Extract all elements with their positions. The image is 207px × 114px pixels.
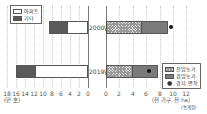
bar-2019-other bbox=[16, 65, 36, 78]
tick-label: 10 bbox=[39, 90, 47, 97]
tick-label: 12 bbox=[30, 90, 38, 97]
grid-line bbox=[7, 6, 8, 88]
bar-2000-apartment bbox=[67, 21, 88, 34]
legend-label-other: 기타 bbox=[24, 15, 34, 21]
legend-label-fulltime: 전업농가 bbox=[176, 66, 196, 72]
tick-label: 4 bbox=[131, 90, 135, 97]
bar-2019-fulltime bbox=[106, 65, 133, 78]
tick-label: 6 bbox=[144, 90, 148, 97]
left-axis-line bbox=[88, 6, 89, 88]
legend-swatch-other bbox=[13, 16, 22, 21]
legend-label-parttime: 겸업농가 bbox=[176, 73, 196, 79]
tick-label: 8 bbox=[158, 90, 162, 97]
right-unit-label: (천 가구, 천 ha) bbox=[152, 97, 190, 103]
tick-label: 12 bbox=[182, 90, 190, 97]
tick-label: 18 bbox=[3, 90, 11, 97]
source-label: (통계청) bbox=[181, 105, 197, 111]
tick-label: 6 bbox=[59, 90, 63, 97]
bar-2019-parttime bbox=[132, 65, 158, 78]
tick-label: 14 bbox=[21, 90, 29, 97]
legend-right: 전업농가 겸업농가 ●경지 면적 bbox=[162, 63, 201, 89]
tick-label: 0 bbox=[86, 90, 90, 97]
legend-label-area: 경지 면적 bbox=[176, 80, 198, 86]
grid-line bbox=[160, 6, 161, 88]
legend-swatch-fulltime bbox=[165, 67, 174, 72]
bar-2019-apartment bbox=[35, 65, 88, 78]
legend-swatch-parttime bbox=[165, 74, 174, 79]
tick-label: 10 bbox=[169, 90, 177, 97]
bar-2000-other bbox=[49, 21, 68, 34]
legend-swatch-apartment bbox=[13, 9, 22, 14]
legend-dot-icon: ● bbox=[165, 80, 174, 86]
tick-label: 4 bbox=[68, 90, 72, 97]
tick-label: 0 bbox=[104, 90, 108, 97]
tick-label: 16 bbox=[12, 90, 20, 97]
left-unit-label: (만 호) bbox=[4, 97, 20, 103]
tick-label: 2 bbox=[77, 90, 81, 97]
dot-2000-area bbox=[169, 25, 173, 29]
bar-2000-fulltime bbox=[106, 21, 142, 34]
legend-label-apartment: 아파트 bbox=[24, 8, 39, 14]
bar-2000-parttime bbox=[141, 21, 168, 34]
legend-left: 아파트 기타 bbox=[10, 5, 42, 24]
tick-label: 8 bbox=[50, 90, 54, 97]
tick-label: 2 bbox=[117, 90, 121, 97]
dot-2019-area bbox=[147, 69, 151, 73]
